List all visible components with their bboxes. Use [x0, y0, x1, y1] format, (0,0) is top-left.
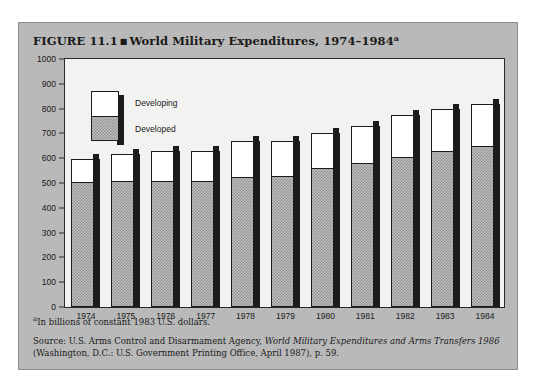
legend-swatch — [91, 91, 123, 141]
bar-shadow — [214, 151, 220, 307]
x-axis-tick-label: 1978 — [236, 311, 255, 321]
bar-developed — [432, 151, 453, 306]
bar-developed — [192, 181, 213, 306]
bar-developing — [471, 104, 494, 307]
y-axis-tick-label: 300 — [42, 228, 56, 238]
chart-legend: Developing Developed — [91, 91, 251, 147]
y-axis-tick-label: 1000 — [37, 54, 56, 64]
bar-developed — [352, 163, 373, 306]
bar-group — [311, 128, 340, 307]
legend-label-developed: Developed — [135, 124, 176, 134]
bar-shadow — [494, 104, 500, 307]
bar-developing — [431, 109, 454, 307]
y-axis: 01002003004005006007008009001000 — [19, 58, 64, 310]
x-axis-tick-label: 1982 — [396, 311, 415, 321]
figure-card: FIGURE 11.1■World Military Expenditures,… — [18, 22, 518, 370]
figure-bullet-icon: ■ — [118, 36, 130, 46]
bar-group — [71, 154, 100, 307]
y-axis-tick-label: 700 — [42, 128, 56, 138]
bar-group — [391, 110, 420, 307]
bar-shadow — [254, 141, 260, 307]
y-axis-tick-label: 100 — [42, 277, 56, 287]
bar-group — [111, 149, 140, 307]
bar-group — [351, 121, 380, 307]
x-axis-tick-label: 1981 — [356, 311, 375, 321]
x-axis-tick-label: 1983 — [436, 311, 455, 321]
bar-developing — [351, 126, 374, 307]
bar-developed — [272, 176, 293, 306]
bar-developing — [311, 133, 334, 307]
figure-title-superscript: a — [394, 33, 399, 43]
figure-title-text: World Military Expenditures, 1974–1984 — [130, 34, 394, 48]
bar-developed — [472, 146, 493, 306]
x-axis-tick-label: 1980 — [316, 311, 335, 321]
bar-shadow — [294, 141, 300, 307]
bar-developed — [312, 168, 333, 306]
bar-developed — [232, 177, 253, 306]
figure-footnote: aIn billions of constant 1983 U.S. dolla… — [33, 315, 210, 327]
legend-label-developing: Developing — [135, 98, 178, 108]
bar-developing — [151, 151, 174, 307]
y-axis-tick-label: 600 — [42, 153, 56, 163]
bar-shadow — [334, 133, 340, 307]
bar-developed — [152, 181, 173, 306]
y-axis-tick-label: 900 — [42, 79, 56, 89]
figure-title: FIGURE 11.1■World Military Expenditures,… — [33, 33, 399, 48]
x-axis-tick-label: 1979 — [276, 311, 295, 321]
y-axis-tick-label: 400 — [42, 203, 56, 213]
x-axis-tick-label: 1984 — [476, 311, 495, 321]
figure-number: FIGURE 11.1 — [33, 34, 118, 48]
legend-swatch-developed — [92, 116, 118, 140]
bar-developed — [392, 157, 413, 306]
bar-group — [151, 146, 180, 307]
y-axis-tick-label: 0 — [51, 302, 56, 312]
y-axis-tick-label: 800 — [42, 104, 56, 114]
bar-developing — [271, 141, 294, 307]
bar-group — [191, 146, 220, 307]
bar-shadow — [174, 151, 180, 307]
bar-developing — [111, 154, 134, 307]
y-axis-tick-label: 200 — [42, 252, 56, 262]
bar-developing — [71, 159, 94, 307]
bar-shadow — [134, 154, 140, 307]
bar-shadow — [374, 126, 380, 307]
bar-group — [471, 99, 500, 307]
bar-developed — [72, 182, 93, 306]
bar-developing — [231, 141, 254, 307]
bar-group — [431, 104, 460, 307]
footnote-text: In billions of constant 1983 U.S. dollar… — [37, 317, 210, 327]
source-publication-title: World Military Expenditures and Arms Tra… — [265, 336, 500, 346]
bar-group — [271, 136, 300, 307]
source-line2: (Washington, D.C.: U.S. Government Print… — [33, 348, 339, 358]
y-axis-tick-label: 500 — [42, 178, 56, 188]
bar-shadow — [94, 159, 100, 307]
legend-swatch-box — [91, 91, 119, 141]
figure-source: Source: U.S. Arms Control and Disarmamen… — [33, 335, 503, 359]
bar-group — [231, 136, 260, 307]
bar-developing — [391, 115, 414, 307]
source-line1-prefix: Source: U.S. Arms Control and Disarmamen… — [33, 336, 265, 346]
bar-shadow — [454, 109, 460, 307]
bar-developing — [191, 151, 214, 307]
bar-developed — [112, 181, 133, 306]
bar-shadow — [414, 115, 420, 307]
